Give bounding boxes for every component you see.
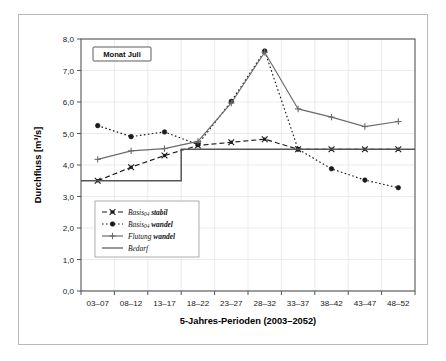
data-point [162, 130, 167, 135]
marker-dot [110, 222, 115, 227]
line-chart: 0,01,02,03,04,05,06,07,08,003–0708–1213–… [19, 15, 429, 346]
y-tick-label: 7,0 [63, 67, 75, 76]
data-point [95, 123, 100, 128]
marker-dot [396, 185, 401, 190]
y-tick-label: 1,0 [63, 256, 75, 265]
x-tick-label: 28–32 [253, 299, 276, 308]
data-point [162, 153, 168, 159]
marker-x-core [129, 166, 132, 169]
x-axis-title: 5-Jahres-Perioden (2003–2052) [180, 316, 316, 326]
x-tick-label: 03–07 [86, 299, 109, 308]
legend-label: Basis04 wandel [128, 220, 174, 229]
legend-label: Flutung wandel [127, 232, 176, 241]
data-point [328, 114, 334, 120]
marker-dot [329, 166, 334, 171]
annotation-label: Monat Juli [103, 50, 141, 59]
y-tick-label: 0,0 [63, 287, 75, 296]
x-tick-label: 23–27 [220, 299, 243, 308]
y-tick-label: 6,0 [63, 98, 75, 107]
x-tick-label: 18–22 [187, 299, 210, 308]
y-axis-title: Durchfluss [m³/s] [33, 127, 43, 203]
data-point [363, 178, 368, 183]
marker-dot [162, 130, 167, 135]
y-tick-label: 8,0 [63, 35, 75, 44]
data-point [396, 185, 401, 190]
data-point [95, 156, 101, 162]
data-point [129, 134, 134, 139]
plot-area: 0,01,02,03,04,05,06,07,08,003–0708–1213–… [19, 15, 429, 346]
x-tick-label: 08–12 [120, 299, 143, 308]
data-point [110, 222, 115, 227]
marker-x-core [263, 137, 266, 140]
x-tick-label: 13–17 [153, 299, 176, 308]
x-tick-label: 43–47 [354, 299, 377, 308]
data-point [362, 123, 368, 129]
chart-figure: 0,01,02,03,04,05,06,07,08,003–0708–1213–… [18, 14, 428, 345]
y-tick-label: 3,0 [63, 193, 75, 202]
marker-dot [95, 123, 100, 128]
marker-dot [129, 134, 134, 139]
y-tick-label: 4,0 [63, 161, 75, 170]
data-point [395, 118, 401, 124]
data-point [161, 145, 167, 151]
y-tick-label: 2,0 [63, 224, 75, 233]
data-point [329, 166, 334, 171]
marker-x-core [163, 154, 166, 157]
data-point [295, 106, 301, 112]
x-tick-label: 33–37 [287, 299, 310, 308]
x-tick-label: 38–42 [320, 299, 343, 308]
legend-label: Bedarf [128, 244, 149, 253]
x-tick-label: 48–52 [387, 299, 410, 308]
data-point [128, 148, 134, 154]
y-tick-label: 5,0 [63, 130, 75, 139]
marker-dot [363, 178, 368, 183]
marker-x-core [111, 210, 114, 213]
marker-x-core [230, 141, 233, 144]
